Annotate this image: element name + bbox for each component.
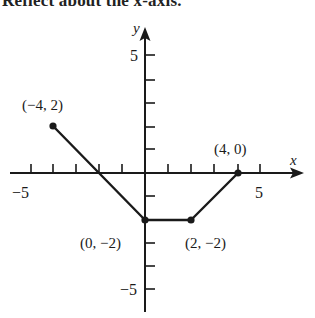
point-label-0-neg2: (0, −2)	[80, 235, 121, 252]
y-tick-label-neg5: −5	[120, 281, 137, 298]
x-axis-label: x	[289, 152, 297, 168]
y-axis	[140, 27, 151, 312]
point-label-2-neg2: (2, −2)	[185, 235, 226, 252]
x-tick-label-5: 5	[255, 184, 263, 201]
y-tick-label-5: 5	[130, 47, 138, 64]
coordinate-plane: −5 5 5 −5 y x (−4, 2) (4, 0) (0, −2) (2,…	[0, 0, 315, 318]
point-0-neg2	[141, 216, 148, 223]
x-tick-label-neg5: −5	[12, 184, 29, 201]
point-4-0	[234, 169, 241, 176]
y-axis-label: y	[131, 20, 140, 36]
point-neg4-2	[49, 122, 56, 129]
point-2-neg2	[187, 216, 194, 223]
point-label-4-0: (4, 0)	[214, 141, 247, 158]
point-label-neg4-2: (−4, 2)	[22, 97, 63, 114]
